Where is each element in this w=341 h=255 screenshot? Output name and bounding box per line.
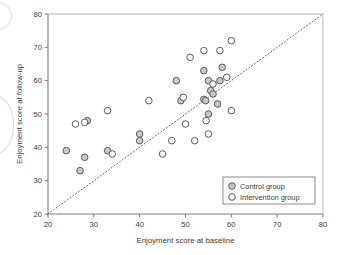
data-point-intervention-16 — [223, 74, 230, 81]
chart-legend[interactable]: Control group Intervention group — [223, 177, 315, 204]
data-point-control-0 — [63, 147, 70, 154]
data-point-control-18 — [219, 64, 226, 71]
series-control-group-points — [63, 64, 225, 174]
data-point-intervention-17 — [228, 37, 235, 44]
data-point-control-7 — [173, 77, 180, 84]
x-tick-label-30: 30 — [90, 220, 98, 229]
data-point-intervention-5 — [159, 151, 166, 158]
y-tick-label-60: 60 — [34, 76, 42, 85]
data-point-intervention-0 — [72, 121, 79, 128]
x-tick-label-70: 70 — [273, 220, 281, 229]
x-tick-label-40: 40 — [135, 220, 143, 229]
data-point-intervention-4 — [146, 97, 153, 104]
data-point-intervention-6 — [168, 137, 175, 144]
legend-marker-control-icon — [229, 183, 236, 190]
x-axis-tick-labels: 20304050607080 — [44, 220, 327, 229]
data-point-intervention-10 — [191, 137, 198, 144]
y-tick-label-80: 80 — [34, 10, 42, 19]
data-point-control-17 — [217, 77, 224, 84]
data-point-intervention-18 — [228, 107, 235, 114]
x-tick-label-50: 50 — [181, 220, 189, 229]
data-point-intervention-12 — [203, 117, 210, 124]
y-tick-label-70: 70 — [34, 43, 42, 52]
chart-canvas: 20304050607080 20304050607080 Enjoyment … — [0, 0, 341, 255]
data-point-control-1 — [77, 167, 84, 174]
data-point-intervention-15 — [217, 47, 224, 54]
data-point-control-16 — [214, 101, 221, 108]
data-point-control-9 — [201, 67, 208, 74]
data-point-control-2 — [81, 154, 88, 161]
data-point-intervention-9 — [187, 54, 194, 61]
data-point-control-13 — [205, 111, 212, 118]
y-tick-label-20: 20 — [34, 210, 42, 219]
series-intervention-group-points — [72, 37, 234, 157]
scatter-plot-figure: 20304050607080 20304050607080 Enjoyment … — [0, 0, 341, 255]
data-point-intervention-11 — [201, 47, 208, 54]
data-point-intervention-1 — [81, 119, 88, 126]
x-tick-label-80: 80 — [319, 220, 327, 229]
y-tick-label-40: 40 — [34, 143, 42, 152]
data-point-intervention-7 — [180, 94, 187, 101]
data-point-intervention-2 — [104, 107, 111, 114]
data-point-intervention-3 — [109, 151, 116, 158]
x-tick-label-20: 20 — [44, 220, 52, 229]
data-point-control-15 — [210, 91, 217, 98]
data-point-control-5 — [136, 131, 143, 138]
legend-marker-intervention-icon — [229, 194, 236, 201]
y-axis-title: Enjoyment score at follow-up — [15, 63, 24, 164]
y-tick-label-30: 30 — [34, 176, 42, 185]
y-axis-tick-labels: 20304050607080 — [34, 10, 42, 219]
data-point-control-11 — [202, 97, 209, 104]
x-tick-label-60: 60 — [227, 220, 235, 229]
x-axis-title: Enjoyment score at baseline — [137, 236, 235, 245]
y-tick-label-50: 50 — [34, 110, 42, 119]
data-point-control-6 — [136, 137, 143, 144]
legend-label-control: Control group — [240, 182, 285, 191]
data-point-intervention-14 — [210, 81, 217, 88]
data-point-intervention-13 — [205, 131, 212, 138]
data-point-intervention-8 — [182, 121, 189, 128]
legend-label-intervention: Intervention group — [240, 193, 300, 202]
